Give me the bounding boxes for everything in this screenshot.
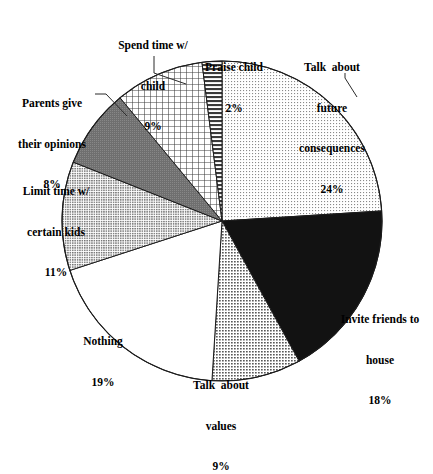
slice-percent: 18%: [327, 394, 433, 408]
slice-label-nothing: Nothing 19%: [53, 308, 153, 416]
slice-label-parents-opinions: Parents give their opinions 8%: [0, 70, 104, 219]
slice-percent: 11%: [2, 266, 110, 280]
slice-label-line: Talk about: [161, 379, 281, 393]
slice-percent: 9%: [161, 460, 281, 474]
slice-label-line: Praise child: [185, 61, 283, 75]
slice-label-future-consequences: Talk about future consequences 24%: [279, 34, 385, 223]
slice-label-line: Talk about: [279, 61, 385, 75]
slice-label-line: future: [279, 102, 385, 116]
slice-percent: 2%: [185, 102, 283, 116]
slice-label-line: Parents give: [0, 97, 104, 111]
slice-percent: 8%: [0, 178, 104, 192]
slice-label-praise-child: Praise child 2%: [185, 34, 283, 142]
slice-label-line: certain kids: [2, 226, 110, 240]
slice-label-line: values: [161, 420, 281, 434]
slice-label-line: Invite friends to: [327, 313, 433, 327]
slice-label-line: Nothing: [53, 335, 153, 349]
slice-percent: 24%: [279, 183, 385, 197]
slice-label-talk-values: Talk about values 9%: [161, 352, 281, 474]
slice-label-line: house: [327, 354, 433, 368]
slice-label-line: consequences: [279, 142, 385, 156]
slice-label-invite-friends: Invite friends to house 18%: [327, 286, 433, 435]
slice-label-line: their opinions: [0, 138, 104, 152]
slice-percent: 19%: [53, 376, 153, 390]
